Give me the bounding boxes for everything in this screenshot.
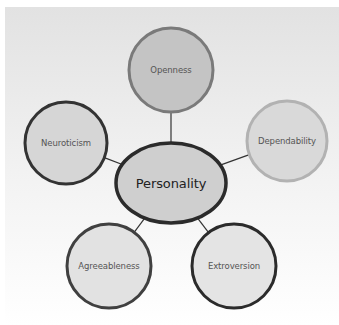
node-label-dependability: Dependability bbox=[258, 136, 316, 146]
center-label: Personality bbox=[136, 176, 207, 191]
node-label-agreeableness: Agreeableness bbox=[78, 261, 139, 271]
node-label-neuroticism: Neuroticism bbox=[41, 138, 91, 148]
node-label-openness: Openness bbox=[150, 65, 191, 75]
personality-diagram bbox=[0, 0, 339, 325]
node-label-extroversion: Extroversion bbox=[208, 261, 260, 271]
